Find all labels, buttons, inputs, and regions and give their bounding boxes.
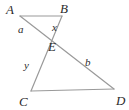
vertex-label-D: D — [116, 94, 125, 107]
segment-label-y: y — [24, 60, 29, 71]
vertex-label-A: A — [6, 3, 14, 16]
segments-group — [20, 16, 114, 91]
segment-AD — [20, 16, 114, 89]
vertex-label-E: E — [48, 40, 56, 53]
segment-BC — [31, 16, 62, 91]
segment-label-a: a — [18, 24, 24, 35]
vertex-label-C: C — [19, 95, 28, 108]
segment-label-x: x — [52, 22, 57, 33]
segment-label-b: b — [85, 57, 91, 68]
segment-CD — [31, 89, 114, 91]
geometry-figure: A B E C D a x y b — [0, 0, 129, 110]
vertex-label-B: B — [60, 2, 68, 15]
